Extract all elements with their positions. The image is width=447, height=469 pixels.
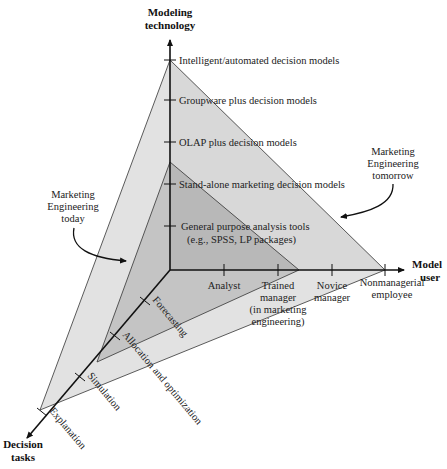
tick-analyst: Analyst — [208, 280, 241, 291]
horizontal-axis-title-1: Model — [412, 258, 442, 270]
vertical-axis-title-2: technology — [145, 19, 196, 31]
diagonal-axis-title-2: tasks — [11, 451, 36, 463]
tick-novice-1: Novice — [317, 280, 348, 291]
arrow-tomorrow-icon — [341, 184, 393, 217]
diagonal-axis-title-1: Decision — [3, 438, 43, 450]
tick-trained-3: (in marketing — [250, 304, 308, 316]
tick-general-purpose-sub: (e.g., SPSS, LP packages) — [187, 234, 296, 246]
annotation-today-1: Marketing — [51, 189, 95, 200]
tick-explanation: Explanation — [47, 405, 89, 452]
tick-trained-1: Trained — [262, 280, 295, 291]
annotation-today-2: Engineering — [47, 201, 99, 212]
tick-groupware: Groupware plus decision models — [179, 95, 317, 106]
tick-nonmanagerial-2: employee — [372, 289, 413, 300]
tick-olap: OLAP plus decision models — [179, 137, 297, 148]
annotation-tomorrow-2: Engineering — [367, 158, 419, 169]
tick-trained-2: manager — [260, 292, 297, 303]
vertical-axis-title-1: Modeling — [148, 6, 193, 18]
annotation-today-3: today — [61, 213, 85, 224]
marketing-engineering-diagram: Modeling technology Model user Decision … — [0, 0, 447, 469]
annotation-tomorrow-3: tomorrow — [372, 170, 414, 181]
tick-general-purpose: General purpose analysis tools — [181, 221, 310, 232]
tick-trained-4: engineering) — [251, 316, 305, 328]
annotation-tomorrow-1: Marketing — [371, 146, 415, 157]
tick-novice-2: manager — [314, 292, 351, 303]
tick-intelligent: Intelligent/automated decision models — [179, 55, 339, 66]
tick-standalone: Stand-alone marketing decision models — [179, 179, 345, 190]
tick-nonmanagerial-1: Nonmanagerial — [360, 277, 425, 288]
